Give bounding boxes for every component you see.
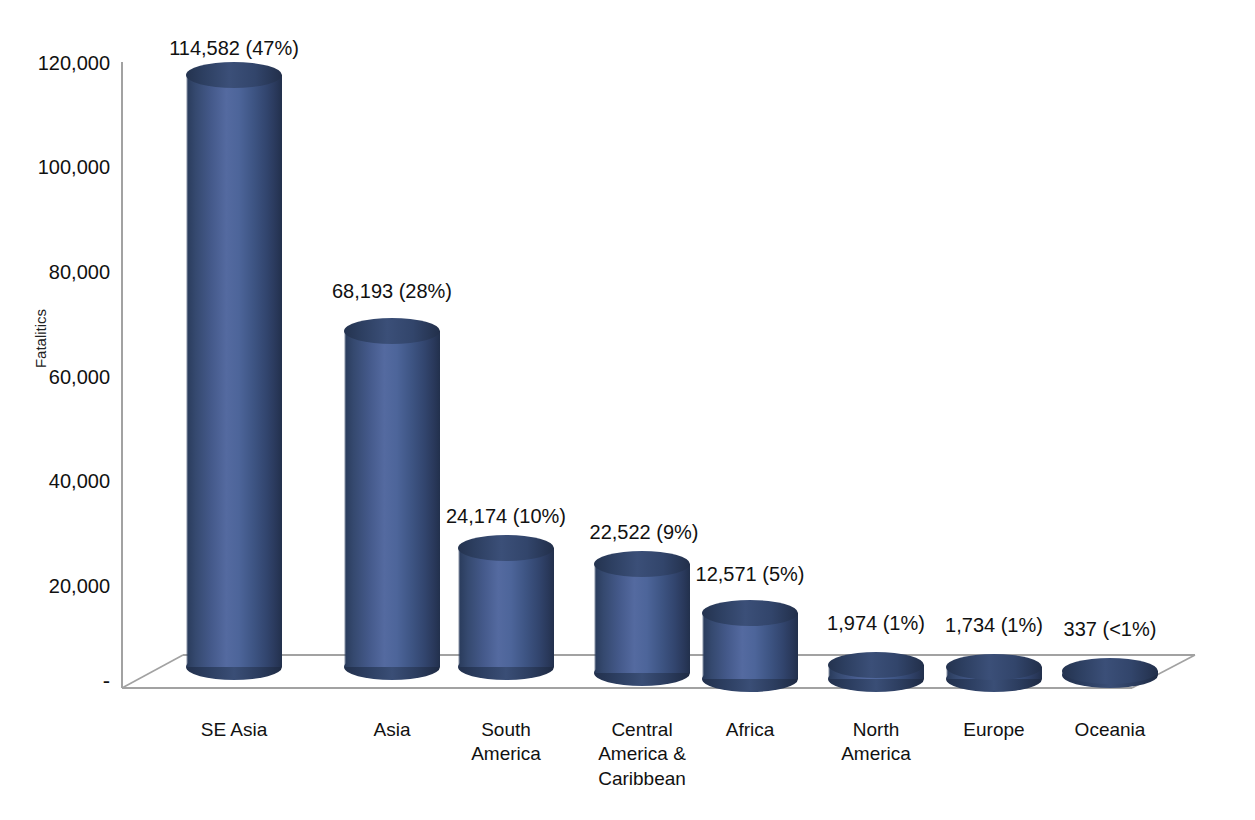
bar-asia [344,318,440,680]
bar-body [186,75,282,667]
bar-chart: Fatalitics 120,000 100,000 80,000 60,000… [0,0,1255,820]
bar-value-label-asia: 68,193 (28%) [272,280,512,303]
bar-oceania [1062,658,1158,688]
bar-top-cap [344,318,440,344]
bar-body [458,548,554,667]
x-category-label-se-asia: SE Asia [154,718,314,742]
y-tick-label: 80,000 [0,261,110,284]
bar-top-cap [946,654,1042,680]
y-axis-line [121,62,123,688]
y-tick-label: 20,000 [0,575,110,598]
bar-value-label-oceania: 337 (<1%) [990,618,1230,641]
bar-value-label-central-america-caribbean: 22,522 (9%) [524,521,764,544]
bar-value-label-se-asia: 114,582 (47%) [114,37,354,60]
bar-value-label-africa: 12,571 (5%) [630,563,870,586]
y-tick-label: 40,000 [0,470,110,493]
y-tick-label: 120,000 [0,52,110,75]
y-tick-label: 60,000 [0,366,110,389]
bar-top-cap [828,652,924,678]
bar-top-cap [186,62,282,88]
bar-europe [946,654,1042,692]
bar-se-asia [186,62,282,680]
bar-north-america [828,652,924,692]
y-tick-label: 100,000 [0,156,110,179]
x-category-label-oceania: Oceania [1030,718,1190,742]
y-tick-label: - [0,668,110,694]
bar-body [344,331,440,667]
bar-top-cap [1062,658,1158,684]
bar-south-america [458,535,554,680]
